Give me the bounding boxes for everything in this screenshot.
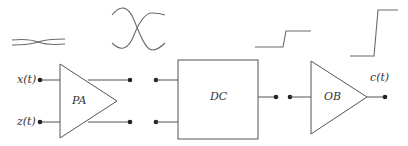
pa-block (60, 64, 117, 138)
pa-output-upper (88, 78, 132, 83)
pa-block-label: PA (72, 95, 86, 106)
waveform-small-crossing (12, 39, 65, 45)
dc-block-label: DC (210, 91, 227, 102)
waveform-small-step (255, 31, 311, 47)
ob-input (288, 95, 311, 100)
waveform-large-step (350, 10, 398, 56)
input-x-label: x(t) (17, 74, 36, 85)
ob-block-label: OB (324, 91, 341, 102)
block-diagram (0, 0, 408, 146)
output-c-terminal (367, 95, 387, 100)
input-z-terminal (38, 120, 60, 125)
pa-output-lower (88, 120, 132, 125)
dc-input-upper (154, 78, 178, 83)
dc-output (258, 95, 278, 100)
input-z-label: z(t) (17, 116, 36, 127)
output-c-label: c(t) (370, 72, 389, 83)
waveform-large-crossing (112, 8, 165, 50)
dc-input-lower (154, 120, 178, 125)
input-x-terminal (38, 78, 60, 83)
